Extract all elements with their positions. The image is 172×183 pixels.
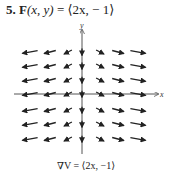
vector-arrow-icon	[64, 50, 72, 54]
vector-arrow-icon	[64, 78, 72, 82]
vector-arrow-icon	[96, 108, 104, 112]
vector-arrow-icon	[96, 137, 104, 141]
vector-arrow-icon	[22, 123, 37, 126]
vector-arrow-icon	[64, 108, 72, 112]
vector-arrow-icon	[112, 109, 124, 112]
vector-arrow-icon	[22, 109, 37, 112]
vector-arrow-icon	[96, 64, 104, 68]
vector-arrow-icon	[64, 64, 72, 68]
vector-arrow-icon	[130, 51, 145, 54]
vector-arrow-icon	[96, 78, 104, 82]
vector-arrow-icon	[44, 65, 56, 68]
vector-arrow-icon	[130, 138, 145, 141]
vector-arrow-icon	[96, 122, 104, 126]
vector-arrow-icon	[112, 123, 124, 126]
vector-arrow-icon	[22, 65, 37, 68]
vector-arrow-icon	[22, 51, 37, 54]
vector-arrow-icon	[22, 79, 37, 82]
vector-arrow-icon	[130, 79, 145, 82]
vector-arrow-icon	[44, 123, 56, 126]
vector-arrow-icon	[64, 137, 72, 141]
vector-arrow-icon	[130, 109, 145, 112]
vector-arrow-icon	[44, 138, 56, 141]
vector-arrow-icon	[112, 51, 124, 54]
vector-arrow-icon	[44, 79, 56, 82]
vector-arrow-icon	[44, 51, 56, 54]
vector-arrow-icon	[130, 123, 145, 126]
vector-arrow-icon	[130, 65, 145, 68]
gradient-caption: ∇V = ⟨2x, −1⟩	[0, 160, 172, 171]
vector-arrow-icon	[96, 50, 104, 54]
vector-arrow-icon	[112, 79, 124, 82]
vector-arrow-icon	[112, 65, 124, 68]
y-axis-label: y	[79, 21, 84, 30]
vector-arrows	[22, 49, 145, 143]
vector-field-plot: x y	[0, 0, 172, 183]
x-axis-label: x	[159, 90, 164, 99]
vector-arrow-icon	[22, 138, 37, 141]
vector-arrow-icon	[64, 122, 72, 126]
axes	[14, 30, 158, 154]
vector-arrow-icon	[112, 138, 124, 141]
vector-arrow-icon	[44, 109, 56, 112]
